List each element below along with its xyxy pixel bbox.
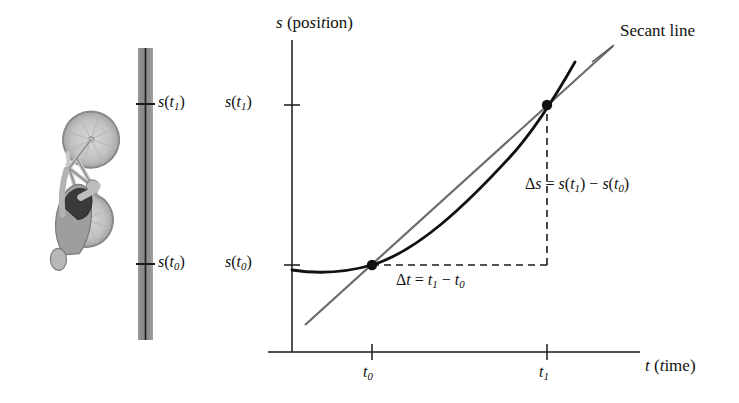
x-tick-label-t1: t1 <box>539 364 549 382</box>
secant-line-figure: s (position) t (time) Secant line s(t1) … <box>0 0 739 403</box>
x-axis-label: t (time) <box>645 357 696 374</box>
point-t1 <box>542 100 552 110</box>
x-tick-label-t0: t0 <box>363 364 373 382</box>
secant-line-label: Secant line <box>620 22 695 39</box>
rider-helmet <box>50 248 67 271</box>
y-tick-label-s-t1: s(t1) <box>225 94 252 112</box>
road-strip-group <box>136 48 155 340</box>
road-tick-label-s-t1: s(t1) <box>158 94 185 112</box>
figure-canvas <box>0 0 739 403</box>
delta-t-annotation: Δt = t1 − t0 <box>396 272 465 290</box>
y-tick-label-s-t0: s(t0) <box>225 254 252 272</box>
graph-axes <box>268 40 640 360</box>
secant-label-leader <box>592 45 614 62</box>
cyclist-illustration <box>22 104 144 284</box>
road-tick-label-s-t0: s(t0) <box>158 254 185 272</box>
y-axis-label: s (position) <box>276 14 353 31</box>
position-curve <box>292 62 575 272</box>
delta-s-annotation: Δs = s(t1) − s(t0) <box>525 176 629 194</box>
point-t0 <box>367 260 377 270</box>
